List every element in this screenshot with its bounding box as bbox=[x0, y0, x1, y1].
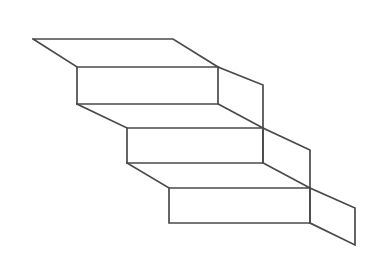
staircase-illusion-drawing bbox=[0, 0, 384, 268]
figure-canvas bbox=[0, 0, 384, 268]
side-face-lower bbox=[310, 188, 355, 245]
riser-3-face bbox=[169, 188, 310, 223]
top-tread-face bbox=[33, 39, 218, 67]
riser-2-face bbox=[127, 128, 263, 163]
stair-faces bbox=[33, 39, 355, 245]
riser-1-face bbox=[77, 67, 218, 104]
